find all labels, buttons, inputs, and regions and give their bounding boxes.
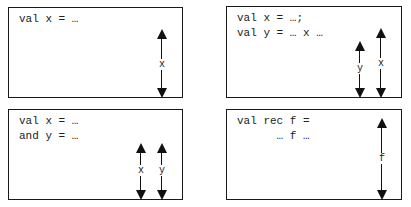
arrow-down-icon [157,190,167,200]
scope-label: y [352,63,368,74]
arrow-down-icon [136,190,146,200]
panel-simple-val: val x = … x [8,7,183,98]
code-snippet: val x = … and y = … [19,114,78,144]
code-snippet: val x = …; val y = … x … [237,11,323,41]
code-snippet: val rec f = … f … [237,114,310,144]
scope-arrow-y: y [355,41,365,98]
panel-recursive-val-rec: val rec f = … f … f [226,109,402,200]
code-snippet: val x = … [19,12,78,27]
arrow-down-icon [377,190,387,200]
scope-arrow-f: f [377,118,387,200]
scope-label: y [154,165,170,176]
scope-label: x [154,59,170,70]
panel-sequential-val: val x = …; val y = … x … y x [226,6,402,98]
code-line: val x = …; [237,12,303,24]
scope-label: x [133,165,149,176]
scope-arrow-x: x [376,28,386,98]
code-line: … f … [237,130,310,142]
scope-arrow-x: x [136,143,146,200]
code-line: val x = … [19,115,78,127]
scope-label: f [374,153,390,164]
code-line: and y = … [19,130,78,142]
code-line: val y = … x … [237,27,323,39]
code-line: val x = … [19,13,78,25]
arrow-down-icon [157,88,167,98]
arrow-down-icon [376,88,386,98]
scope-arrow-y: y [157,143,167,200]
panel-simultaneous-and: val x = … and y = … x y [8,109,183,200]
arrow-down-icon [355,88,365,98]
scope-arrow-x: x [157,29,167,98]
scope-label: x [373,58,389,69]
code-line: val rec f = [237,115,310,127]
